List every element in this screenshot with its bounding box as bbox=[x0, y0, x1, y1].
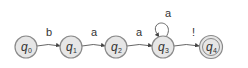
state-q2: q 2 bbox=[105, 36, 127, 58]
transition-q3-q4 bbox=[174, 45, 199, 47]
transition-label-q3-q4: ! bbox=[192, 26, 195, 38]
state-subscript: 0 bbox=[28, 47, 32, 54]
state-label: q bbox=[111, 40, 118, 54]
state-label: q bbox=[21, 40, 28, 54]
transition-label-q2-q3: a bbox=[136, 26, 143, 38]
transition-q1-q2 bbox=[82, 45, 105, 47]
automaton-diagram: b a a a ! q 0 q 1 q 2 q 3 q 4 bbox=[0, 0, 248, 68]
state-subscript: 2 bbox=[118, 47, 122, 54]
transition-q3-self-loop bbox=[155, 23, 168, 37]
transition-q2-q3 bbox=[127, 45, 152, 47]
transition-q0-q1 bbox=[37, 45, 60, 47]
state-subscript: 3 bbox=[165, 47, 169, 54]
state-label: q bbox=[66, 40, 73, 54]
state-q3: q 3 bbox=[152, 36, 174, 58]
state-subscript: 1 bbox=[73, 47, 77, 54]
transition-label-q0-q1: b bbox=[46, 26, 52, 38]
transition-label-q3-q3: a bbox=[165, 7, 172, 19]
state-q0: q 0 bbox=[15, 36, 37, 58]
state-q4-accepting: q 4 bbox=[200, 36, 223, 59]
state-q1: q 1 bbox=[60, 36, 82, 58]
state-label: q bbox=[158, 40, 165, 54]
state-subscript: 4 bbox=[213, 47, 217, 54]
state-label: q bbox=[206, 40, 213, 54]
transition-label-q1-q2: a bbox=[91, 26, 98, 38]
